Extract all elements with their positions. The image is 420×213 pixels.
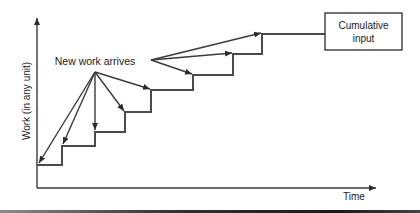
y-axis-label: Work (in any unit)	[21, 62, 32, 140]
cumulative-input-box	[325, 13, 402, 50]
bottom-edge-bar	[0, 210, 420, 213]
new-work-arrows-group-1	[39, 72, 150, 163]
cumulative-input-label-line2: input	[353, 33, 375, 44]
cumulative-input-staircase	[37, 34, 325, 165]
cumulative-input-diagram: New work arrives Cumulative input Work (…	[0, 0, 420, 213]
cumulative-input-label-line1: Cumulative	[338, 20, 388, 31]
x-axis-label: Time	[343, 191, 365, 202]
new-work-arrives-label: New work arrives	[55, 55, 136, 67]
